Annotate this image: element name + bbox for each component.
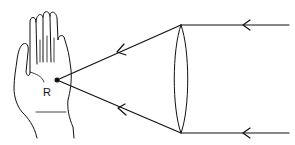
hand-outline [14, 12, 74, 138]
finger-crease-lines [40, 36, 54, 62]
diagram-canvas [0, 0, 295, 145]
thumb-crease [30, 72, 44, 82]
focus-point [55, 78, 60, 83]
convex-lens [174, 25, 188, 133]
hand-label: R [43, 86, 51, 98]
lens-focus-diagram: R [0, 0, 295, 145]
converging-ray-bottom [57, 80, 181, 133]
